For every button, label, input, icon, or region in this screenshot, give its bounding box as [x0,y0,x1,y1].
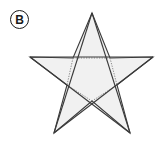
figure-panel: B [0,0,157,145]
panel-label-b: B [10,10,29,29]
panel-label-text: B [15,14,24,26]
star-outline-shape [30,13,153,133]
